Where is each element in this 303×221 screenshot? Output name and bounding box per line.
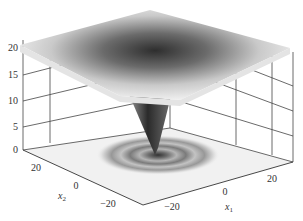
x1-axis-label: x1 xyxy=(224,201,233,214)
svg-text:−20: −20 xyxy=(100,198,116,209)
svg-text:10: 10 xyxy=(8,95,18,106)
svg-text:5: 5 xyxy=(13,121,18,132)
svg-text:0: 0 xyxy=(74,180,79,191)
x2-axis-label: x2 xyxy=(57,190,66,203)
svg-text:20: 20 xyxy=(267,173,277,184)
surface-plot: 20 15 10 5 0 20 0 −20 x2 −20 0 20 x1 xyxy=(0,0,303,221)
svg-text:0: 0 xyxy=(13,144,18,155)
surface-plateau xyxy=(20,10,290,100)
svg-text:20: 20 xyxy=(8,42,18,53)
svg-text:0: 0 xyxy=(223,186,228,197)
svg-text:15: 15 xyxy=(8,69,18,80)
svg-text:20: 20 xyxy=(31,162,41,173)
z-axis-ticks: 20 15 10 5 0 xyxy=(8,42,18,155)
svg-text:−20: −20 xyxy=(164,201,180,212)
